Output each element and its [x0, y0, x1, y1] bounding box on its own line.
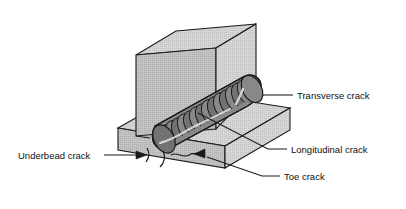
label-underbead-crack: Underbead crack: [18, 150, 91, 161]
label-toe-crack: Toe crack: [284, 171, 325, 182]
weld-crack-diagram: Transverse crack Longitudinal crack Toe …: [0, 0, 406, 209]
label-longitudinal-crack: Longitudinal crack: [291, 144, 368, 155]
diagram-canvas: Transverse crack Longitudinal crack Toe …: [0, 0, 406, 209]
label-transverse-crack: Transverse crack: [297, 90, 370, 101]
